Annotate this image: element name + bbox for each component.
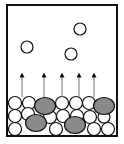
solvent-particle (9, 97, 22, 110)
solvent-particle (88, 123, 101, 136)
solvent-particle (70, 97, 83, 110)
solute-particle (35, 98, 56, 115)
solvent-particle (9, 110, 22, 123)
vapor-particle (74, 23, 86, 35)
solvent-particle (50, 123, 63, 136)
solvent-particle (102, 123, 115, 136)
vapor-particle (65, 48, 77, 60)
evaporation-diagram (0, 0, 124, 144)
solvent-particle (56, 97, 69, 110)
solute-particle (26, 115, 47, 132)
solute-particle (94, 98, 115, 115)
solute-particle (65, 117, 86, 134)
solvent-particle (9, 123, 22, 136)
solvent-particle (84, 111, 97, 124)
vapor-particle (21, 41, 33, 53)
